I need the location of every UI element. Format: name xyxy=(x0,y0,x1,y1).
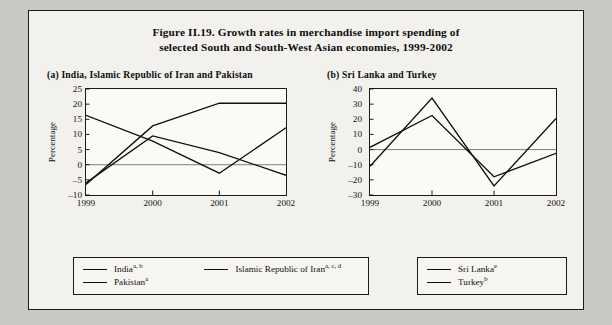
figure-frame: Figure II.19. Growth rates in merchandis… xyxy=(28,10,584,310)
legend-item-label: Sri Lankae xyxy=(458,263,497,276)
y-tick-label: 15 xyxy=(73,114,82,124)
chart-panel-a: (a) India, Islamic Republic of Iran and … xyxy=(45,69,317,220)
y-tick-label: –20 xyxy=(348,175,362,185)
y-tick-label: 20 xyxy=(353,114,362,124)
legend-footnote-marker: a, c, d xyxy=(325,262,341,269)
series-line-pakistan xyxy=(86,136,286,183)
figure-title-line-2: selected South and South-West Asian econ… xyxy=(71,40,541,55)
figure-title: Figure II.19. Growth rates in merchandis… xyxy=(71,25,541,54)
legend-panel-b: Sri LankaeTurkeyb xyxy=(417,257,567,295)
legend-item: Indiaa, b xyxy=(83,263,204,276)
y-tick-label: –10 xyxy=(348,160,362,170)
y-tick-label: 10 xyxy=(73,129,82,139)
legend-line-swatch xyxy=(204,269,228,270)
legend-item-label: Islamic Republic of Irana, c, d xyxy=(235,263,341,276)
x-tick-label: 2002 xyxy=(277,198,295,208)
y-tick-label: 5 xyxy=(77,145,82,155)
panel-b-plot-box xyxy=(369,88,557,196)
y-tick-label: 20 xyxy=(73,99,82,109)
legend-footnote-marker: e xyxy=(494,262,497,269)
y-tick-label: 0 xyxy=(77,160,82,170)
y-tick-label: 0 xyxy=(357,145,362,155)
x-tick-label: 1999 xyxy=(361,198,379,208)
x-tick-label: 2000 xyxy=(143,198,161,208)
legend-footnote-marker: a xyxy=(145,275,148,282)
legend-footnote-marker: a, b xyxy=(133,262,143,269)
x-tick-label: 2001 xyxy=(210,198,228,208)
legend-panel-b-items: Sri LankaeTurkeyb xyxy=(427,263,557,289)
series-line-sri-lanka xyxy=(370,116,556,177)
legend-panel-a: Indiaa, bIslamic Republic of Irana, c, d… xyxy=(73,257,369,295)
panel-b-header: (b) Sri Lanka and Turkey xyxy=(327,69,577,80)
series-line-turkey xyxy=(370,98,556,186)
legend-item: Sri Lankae xyxy=(427,263,557,276)
legend-item: Pakistana xyxy=(83,276,359,289)
panel-b-plot-area: Percentage 403020100–10–20–30 1999200020… xyxy=(325,88,577,220)
panel-a-series-svg xyxy=(86,89,286,195)
panel-b-y-axis-label: Percentage xyxy=(325,88,339,196)
x-tick-label: 2000 xyxy=(423,198,441,208)
legend-footnote-marker: b xyxy=(484,275,487,282)
x-tick-label: 1999 xyxy=(77,198,95,208)
panel-b-y-tick-labels: 403020100–10–20–30 xyxy=(339,88,365,196)
y-tick-label: 25 xyxy=(73,84,82,94)
figure-title-line-1: Figure II.19. Growth rates in merchandis… xyxy=(71,25,541,40)
y-tick-label: 10 xyxy=(353,129,362,139)
x-tick-label: 2002 xyxy=(547,198,565,208)
panel-a-header: (a) India, Islamic Republic of Iran and … xyxy=(47,69,317,80)
panel-a-plot-area: Percentage 2520151050–5–10 1999200020012… xyxy=(45,88,317,220)
y-tick-label: –5 xyxy=(73,175,82,185)
legend-line-swatch xyxy=(427,269,451,270)
legend-item: Turkeyb xyxy=(427,276,557,289)
chart-panel-b: (b) Sri Lanka and Turkey Percentage 4030… xyxy=(325,69,577,220)
panel-a-plot-box xyxy=(85,88,287,196)
legend-panel-a-items: Indiaa, bIslamic Republic of Irana, c, d… xyxy=(83,263,359,289)
legend-line-swatch xyxy=(83,269,107,270)
legend-item-label: Pakistana xyxy=(114,276,148,289)
legend-item-label: Indiaa, b xyxy=(114,263,143,276)
x-tick-label: 2001 xyxy=(485,198,503,208)
panel-a-y-tick-labels: 2520151050–5–10 xyxy=(59,88,85,196)
y-tick-label: 40 xyxy=(353,84,362,94)
panel-a-y-axis-label: Percentage xyxy=(45,88,59,196)
legend-item-label: Turkeyb xyxy=(458,276,488,289)
legend-item: Islamic Republic of Irana, c, d xyxy=(204,263,325,276)
legend-line-swatch xyxy=(83,282,107,283)
panel-b-series-svg xyxy=(370,89,556,195)
legend-line-swatch xyxy=(427,282,451,283)
y-tick-label: 30 xyxy=(353,99,362,109)
